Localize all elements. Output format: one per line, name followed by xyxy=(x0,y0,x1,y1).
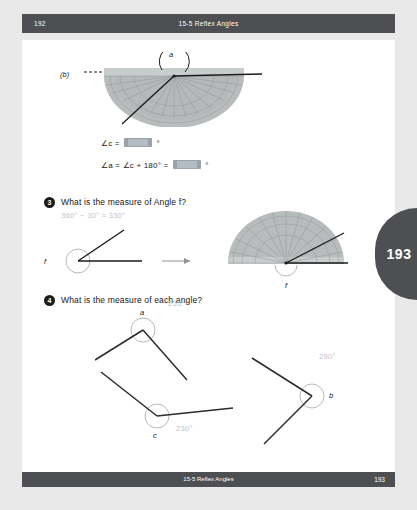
answer-blank-c[interactable] xyxy=(124,138,152,147)
question-3-answer: 360° − 30° = 330° xyxy=(61,211,126,220)
question-3-protractor-label: f xyxy=(285,281,287,290)
question-3-protractor xyxy=(222,205,350,285)
question-3: 3 What is the measure of Angle f? xyxy=(44,197,186,208)
question-4-angle-b-figure xyxy=(240,348,355,448)
question-4-angle-c-figure xyxy=(95,370,235,440)
equation-angle-a-suffix: ° xyxy=(205,161,208,170)
figure-b-protractor xyxy=(84,52,274,127)
question-4-angle-b-answer: 290° xyxy=(319,352,336,361)
equation-angle-c-suffix: ° xyxy=(157,139,160,148)
question-3-angle-label: f xyxy=(44,257,46,266)
equation-angle-a: ∠a = ∠c + 180° = ° xyxy=(101,160,209,170)
answer-blank-a[interactable] xyxy=(173,160,201,169)
question-4-angle-a-label: a xyxy=(140,308,144,317)
running-head-title: 15-5 Reflex Angles xyxy=(22,20,395,27)
question-4-number: 4 xyxy=(44,295,55,306)
figure-b-label: (b) xyxy=(60,70,69,79)
question-3-number: 3 xyxy=(44,197,55,208)
figure-b-angle-label: a xyxy=(169,50,173,59)
running-head: 192 15-5 Reflex Angles xyxy=(22,14,395,33)
question-4-angle-c-answer: 230° xyxy=(176,424,193,433)
equation-angle-a-prefix: ∠a = ∠c + 180° = xyxy=(101,161,168,170)
footer-page-number: 193 xyxy=(374,472,385,487)
equation-angle-c: ∠c = ° xyxy=(101,138,160,148)
question-4-angle-a-answer: 255° xyxy=(168,299,185,308)
question-3-text: What is the measure of Angle f? xyxy=(61,197,186,208)
footer-title: 15-5 Reflex Angles xyxy=(22,472,395,487)
question-3-angle-figure xyxy=(46,228,196,286)
question-4-angle-b-label: b xyxy=(329,391,333,400)
textbook-page: 192 15-5 Reflex Angles xyxy=(0,0,417,510)
equation-angle-c-prefix: ∠c = xyxy=(101,139,120,148)
page-footer: 15-5 Reflex Angles 193 xyxy=(22,472,395,487)
question-4-angle-c-label: c xyxy=(153,431,157,440)
page-side-tab-number: 193 xyxy=(387,246,412,262)
